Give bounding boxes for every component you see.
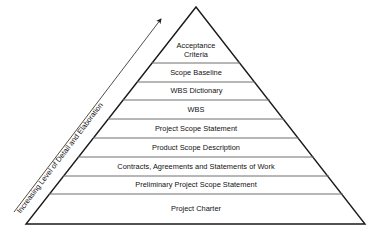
pyramid-diagram: Acceptance Criteria Scope Baseline WBS D… [0,0,373,233]
pyramid-outline [26,7,365,224]
pyramid-shape [0,0,373,233]
